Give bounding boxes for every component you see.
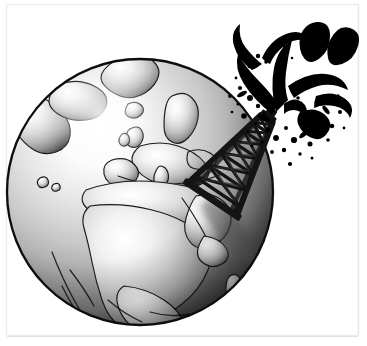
- illustration-canvas: Oil derrick gushing crude oil on planet …: [0, 0, 367, 346]
- globe-specular-highlight: [48, 70, 160, 162]
- oil-globe-illustration: [0, 0, 367, 346]
